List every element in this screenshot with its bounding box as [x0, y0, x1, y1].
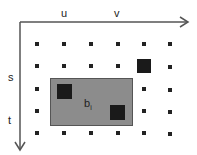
grid-dot [168, 88, 172, 92]
axis-label-t: t [8, 115, 11, 126]
grid-dot [168, 132, 172, 136]
grid-dot [89, 64, 93, 68]
grid-dot [116, 131, 120, 135]
block-large [57, 84, 72, 99]
grid-dot [142, 87, 146, 91]
axis-label-s: s [8, 72, 14, 83]
grid-dot [142, 109, 146, 113]
grid-dot [89, 42, 93, 46]
region-label-subscript: i [90, 104, 92, 111]
grid-dot [89, 131, 93, 135]
region-label: bi [84, 98, 92, 111]
grid-dot [62, 64, 66, 68]
grid-dot [168, 42, 172, 46]
grid-dot [116, 42, 120, 46]
block-large [110, 105, 125, 120]
grid-dot [168, 110, 172, 114]
grid-dot [142, 42, 146, 46]
grid-dot [168, 65, 172, 69]
grid-dot [116, 64, 120, 68]
axis-label-v: v [114, 8, 120, 19]
grid-dot [142, 131, 146, 135]
grid-dot [35, 131, 39, 135]
grid-dot [35, 64, 39, 68]
grid-dot [62, 42, 66, 46]
grid-dot [35, 109, 39, 113]
grid-dot [62, 131, 66, 135]
grid-dot [35, 42, 39, 46]
block-large [137, 59, 151, 73]
grid-dot [35, 87, 39, 91]
axis-label-u: u [61, 8, 67, 19]
